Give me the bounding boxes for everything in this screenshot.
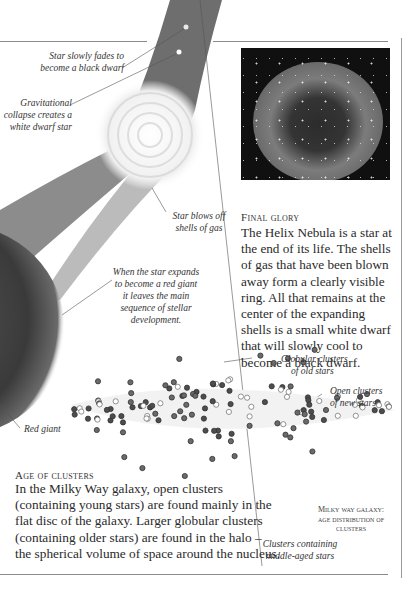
label-globular-clusters: Globular clusters of old stars — [281, 353, 371, 377]
label-open-clusters: Open clusters of new stars — [330, 385, 410, 409]
diagram-caption: Milky way galaxy: age distribution of cl… — [306, 505, 396, 534]
age-of-clusters-body: In the Milky Way galaxy, open clusters (… — [15, 481, 315, 562]
age-of-clusters-heading: Age of clusters — [15, 469, 94, 481]
